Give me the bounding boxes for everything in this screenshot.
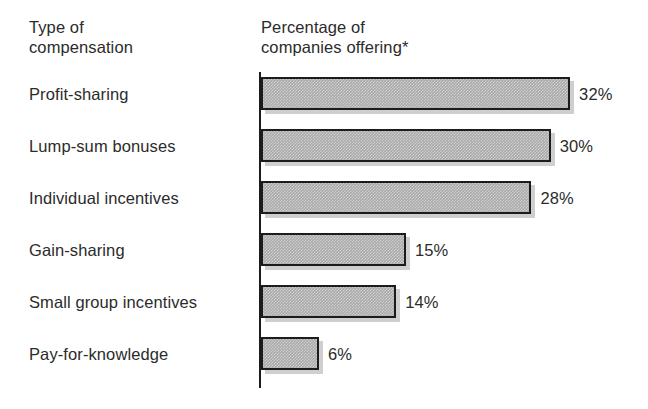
column-header-percentage: Percentage of companies offering* (261, 17, 408, 57)
category-label: Small group incentives (29, 292, 197, 312)
category-label: Individual incentives (29, 188, 179, 208)
bar-value-label: 30% (560, 136, 593, 156)
bar-value-label: 6% (328, 344, 352, 364)
bar-fill (261, 233, 406, 266)
bar-row: Gain-sharing15% (0, 233, 648, 266)
category-label: Pay-for-knowledge (29, 344, 168, 364)
bar-row: Profit-sharing32% (0, 77, 648, 110)
bar-row: Pay-for-knowledge6% (0, 337, 648, 370)
bar (261, 337, 319, 370)
bar-row: Lump-sum bonuses30% (0, 129, 648, 162)
category-label: Gain-sharing (29, 240, 125, 260)
bar-value-label: 15% (415, 240, 448, 260)
bar-row: Individual incentives28% (0, 181, 648, 214)
category-label: Lump-sum bonuses (29, 136, 176, 156)
bar-value-label: 28% (540, 188, 573, 208)
bar (261, 77, 570, 110)
bar-value-label: 32% (579, 84, 612, 104)
bar-chart: Type of compensation Percentage of compa… (0, 0, 648, 409)
bar-value-label: 14% (405, 292, 438, 312)
bar (261, 285, 396, 318)
bar (261, 233, 406, 266)
bar-fill (261, 181, 531, 214)
column-header-category: Type of compensation (29, 17, 133, 57)
bar-row: Small group incentives14% (0, 285, 648, 318)
bar-fill (261, 285, 396, 318)
category-label: Profit-sharing (29, 84, 129, 104)
bar-fill (261, 77, 570, 110)
bar (261, 181, 531, 214)
bar (261, 129, 551, 162)
bar-fill (261, 337, 319, 370)
bar-fill (261, 129, 551, 162)
